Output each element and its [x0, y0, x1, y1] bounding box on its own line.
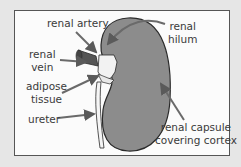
label-adipose-line2: tissue [26, 93, 67, 106]
label-capsule-line1: renal capsule [155, 121, 237, 134]
label-renal-artery: renal artery [47, 17, 109, 30]
label-renal-hilum-line2: hilum [168, 33, 197, 46]
label-renal-capsule: renal capsule covering cortex [155, 121, 237, 147]
label-ureter: ureter [28, 113, 60, 126]
label-capsule-line2: covering cortex [155, 134, 237, 147]
label-adipose-line1: adipose [26, 80, 67, 93]
label-renal-hilum: renal hilum [168, 20, 197, 46]
label-adipose-tissue: adipose tissue [26, 80, 67, 106]
label-renal-hilum-line1: renal [168, 20, 197, 33]
label-renal-vein-line1: renal [29, 48, 56, 61]
label-renal-vein-line2: vein [29, 61, 56, 74]
label-renal-vein: renal vein [29, 48, 56, 74]
